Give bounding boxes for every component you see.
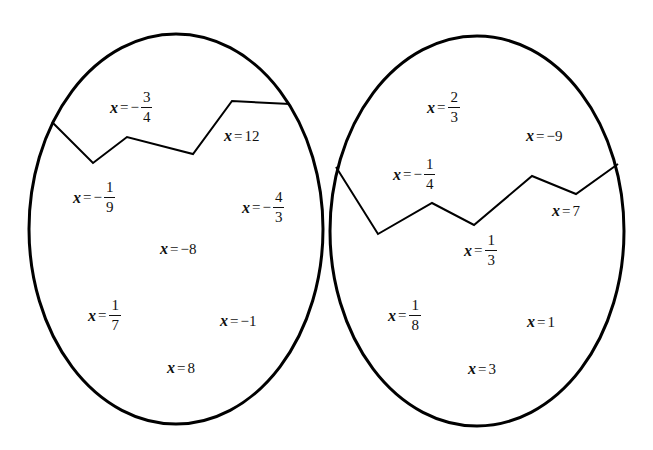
denominator: 7 [111, 316, 119, 333]
equals-sign: = [234, 129, 242, 144]
left-egg-equation: x=−1 [220, 313, 256, 329]
equals-sign: = [177, 361, 185, 376]
numerator: 1 [109, 298, 121, 316]
equals-sign: = [98, 308, 106, 323]
equals-sign: = [230, 314, 238, 329]
left-egg-equation: x=−34 [110, 90, 152, 125]
denominator: 4 [426, 175, 434, 192]
numerator: 1 [424, 157, 436, 175]
variable: x [88, 308, 96, 324]
denominator: 9 [106, 198, 114, 215]
left-egg-equation: x=17 [88, 298, 121, 333]
variable: x [242, 200, 250, 216]
value: 12 [244, 129, 259, 144]
equals-sign: = [403, 167, 411, 182]
right-egg-equation: x=7 [552, 203, 580, 219]
denominator: 4 [143, 108, 151, 125]
value: −1 [240, 314, 256, 329]
fraction: 43 [273, 190, 285, 225]
right-egg-equation: x=−9 [526, 128, 562, 144]
fraction: 17 [109, 298, 121, 333]
numerator: 3 [141, 90, 153, 108]
right-egg-equation: x=18 [388, 298, 421, 333]
numerator: 2 [448, 90, 460, 108]
variable: x [73, 190, 81, 206]
value: 3 [488, 362, 496, 377]
value: 8 [187, 361, 195, 376]
equals-sign: = [536, 129, 544, 144]
value: 1 [547, 315, 555, 330]
variable: x [224, 128, 232, 144]
left-egg-equation: x=−43 [242, 190, 284, 225]
value: −9 [546, 129, 562, 144]
equals-sign: = [478, 362, 486, 377]
variable: x [167, 360, 175, 376]
denominator: 8 [411, 316, 419, 333]
equals-sign: = [474, 243, 482, 258]
right-egg-equation: x=3 [468, 361, 496, 377]
equals-sign: = [252, 200, 260, 215]
left-egg-equation: x=−8 [160, 241, 196, 257]
denominator: 3 [450, 108, 458, 125]
variable: x [464, 243, 472, 259]
right-egg-crack [336, 164, 618, 234]
variable: x [427, 100, 435, 116]
numerator: 1 [104, 180, 116, 198]
variable: x [468, 361, 476, 377]
variable: x [526, 128, 534, 144]
equals-sign: = [437, 100, 445, 115]
right-egg-equation: x=1 [527, 314, 555, 330]
denominator: 3 [275, 208, 283, 225]
variable: x [552, 203, 560, 219]
left-egg-equation: x=12 [224, 128, 259, 144]
left-egg-equation: x=8 [167, 360, 195, 376]
value: −8 [180, 242, 196, 257]
minus-sign: − [130, 100, 138, 115]
eggs-drawing [0, 0, 653, 450]
fraction: 18 [409, 298, 421, 333]
right-egg-equation: x=13 [464, 233, 497, 268]
fraction: 34 [141, 90, 153, 125]
fraction: 23 [448, 90, 460, 125]
fraction: 13 [485, 233, 497, 268]
minus-sign: − [93, 190, 101, 205]
variable: x [110, 100, 118, 116]
variable: x [160, 241, 168, 257]
minus-sign: − [413, 167, 421, 182]
variable: x [393, 167, 401, 183]
left-egg-equation: x=−19 [73, 180, 115, 215]
equals-sign: = [398, 308, 406, 323]
numerator: 1 [485, 233, 497, 251]
variable: x [388, 308, 396, 324]
value: 7 [572, 204, 580, 219]
fraction: 19 [104, 180, 116, 215]
denominator: 3 [487, 251, 495, 268]
minus-sign: − [262, 200, 270, 215]
fraction: 14 [424, 157, 436, 192]
equals-sign: = [120, 100, 128, 115]
equals-sign: = [83, 190, 91, 205]
variable: x [220, 313, 228, 329]
equals-sign: = [170, 242, 178, 257]
right-egg-equation: x=−14 [393, 157, 435, 192]
numerator: 4 [273, 190, 285, 208]
variable: x [527, 314, 535, 330]
equals-sign: = [537, 315, 545, 330]
equals-sign: = [562, 204, 570, 219]
right-egg-equation: x=23 [427, 90, 460, 125]
numerator: 1 [409, 298, 421, 316]
